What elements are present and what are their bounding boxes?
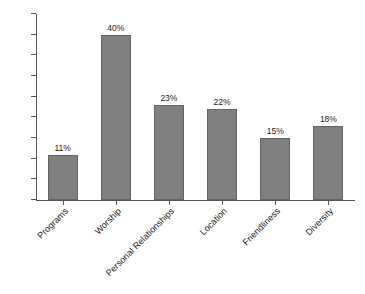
x-tick-mark (116, 201, 117, 205)
bar-value-label: 23% (149, 93, 189, 103)
bar (260, 138, 290, 200)
x-tick-mark (275, 201, 276, 205)
plot-area: 11%40%23%22%15%18% (36, 14, 355, 200)
x-axis-line (36, 200, 355, 201)
x-tick-mark (169, 201, 170, 205)
bar (154, 105, 184, 200)
bar (48, 155, 78, 200)
bar-value-label: 40% (96, 23, 136, 33)
bar-chart: 051015202530354045% 11%40%23%22%15%18% P… (0, 0, 365, 294)
bar (101, 35, 131, 200)
bar-value-label: 22% (202, 97, 242, 107)
bar-value-label: 11% (43, 143, 83, 153)
bar-value-label: 15% (255, 126, 295, 136)
x-tick-mark (222, 201, 223, 205)
category-label: Programs (0, 206, 70, 294)
x-tick-mark (63, 201, 64, 205)
bar (207, 109, 237, 200)
bar-value-label: 18% (308, 114, 348, 124)
bar (313, 126, 343, 200)
x-tick-mark (328, 201, 329, 205)
